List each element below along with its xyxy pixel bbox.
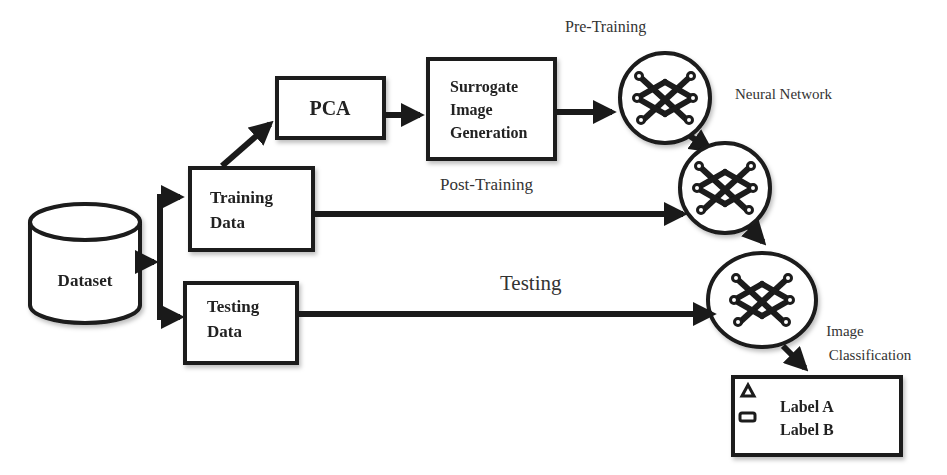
edge-dataset-split: [140, 197, 180, 317]
surrogate-image-generation-node: Surrogate Image Generation: [428, 59, 555, 159]
pipeline-diagram: Dataset Training Data Testing Data PCA S…: [0, 0, 947, 475]
pre-training-label: Pre-Training: [565, 18, 646, 36]
svg-text:Image: Image: [450, 101, 493, 119]
dataset-node: Dataset: [30, 204, 140, 323]
edge-nn2-nn3: [748, 226, 763, 242]
image-classification-label-line2: Classification: [829, 347, 912, 363]
label-a: Label A: [780, 398, 834, 415]
neural-network-icon: [708, 253, 816, 347]
pca-node: PCA: [277, 78, 384, 138]
svg-text:Data: Data: [210, 213, 245, 232]
svg-text:PCA: PCA: [309, 97, 351, 119]
rounded-rect-icon: [740, 413, 755, 421]
classification-output-node: Label A Label B: [733, 377, 901, 455]
neural-network-label: Neural Network: [735, 86, 833, 102]
image-classification-label-line1: Image: [826, 323, 864, 339]
post-training-label: Post-Training: [440, 175, 533, 194]
edge-training-pca: [222, 124, 270, 166]
svg-text:Generation: Generation: [450, 124, 527, 141]
svg-text:Surrogate: Surrogate: [450, 78, 518, 96]
testing-label: Testing: [500, 271, 562, 295]
label-b: Label B: [780, 421, 834, 438]
svg-text:Data: Data: [207, 322, 242, 341]
dataset-label: Dataset: [58, 271, 113, 290]
testing-data-node: Testing Data: [185, 283, 297, 363]
svg-text:Training: Training: [210, 188, 273, 207]
neural-network-icon: [680, 143, 770, 233]
edge-nn3-output: [783, 346, 805, 368]
training-data-node: Training Data: [190, 168, 313, 250]
svg-text:Testing: Testing: [207, 297, 260, 316]
neural-network-icon: [620, 53, 710, 143]
